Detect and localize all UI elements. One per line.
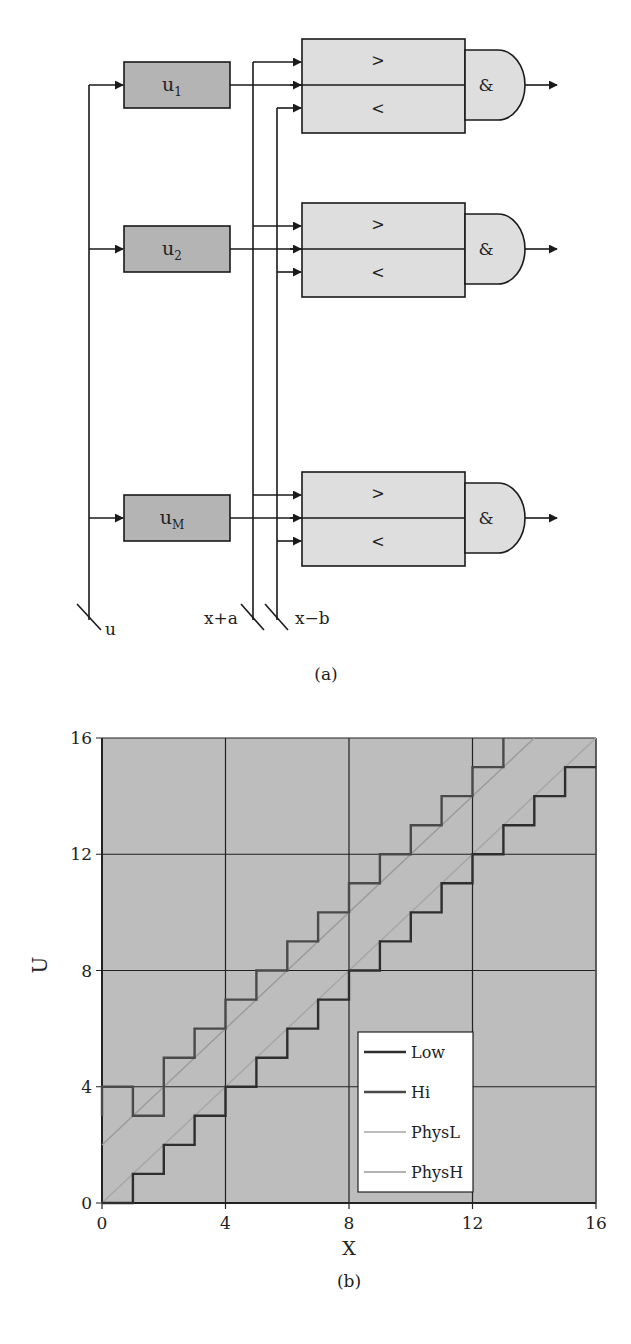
greater-than-label: > (371, 51, 384, 70)
x-tick-label: 4 (220, 1213, 231, 1233)
x-axis-label: X (342, 1237, 356, 1259)
legend-label-physh: PhysH (411, 1163, 463, 1182)
channel-3: uM><& (89, 472, 557, 566)
legend: LowHiPhysLPhysH (358, 1032, 473, 1192)
less-than-label: < (371, 99, 384, 118)
bus-label-u: u (105, 619, 116, 639)
and-gate (465, 50, 525, 120)
y-tick-label: 12 (70, 844, 92, 864)
and-gate-label: & (478, 508, 493, 528)
y-tick-label: 8 (81, 961, 92, 981)
bus-label-x-minus-b: x−b (295, 608, 330, 628)
x-tick-label: 12 (462, 1213, 484, 1233)
channel-1: u1><& (89, 39, 557, 133)
greater-than-label: > (371, 484, 384, 503)
legend-label-physl: PhysL (411, 1123, 460, 1142)
channel-2: u2><& (89, 203, 557, 297)
less-than-label: < (371, 263, 384, 282)
y-tick-label: 0 (81, 1193, 92, 1213)
y-tick-label: 4 (81, 1077, 92, 1097)
y-axis-label: U (28, 957, 52, 974)
x-tick-label: 8 (344, 1213, 355, 1233)
block-diagram: ux+ax−bu1><&u2><&uM><& (77, 39, 557, 639)
and-gate-label: & (478, 75, 493, 95)
legend-label-low: Low (411, 1043, 445, 1062)
step-chart: 04812160481216LowHiPhysLPhysH (70, 728, 606, 1233)
and-gate-label: & (478, 239, 493, 259)
less-than-label: < (371, 532, 384, 551)
and-gate (465, 483, 525, 553)
x-tick-label: 0 (97, 1213, 108, 1233)
panel-b-caption: (b) (337, 1271, 361, 1291)
y-tick-label: 16 (70, 728, 92, 748)
panel-a-caption: (a) (314, 664, 337, 684)
x-tick-label: 16 (585, 1213, 607, 1233)
figure: ux+ax−bu1><&u2><&uM><& (a) 0481216048121… (0, 0, 631, 1344)
bus-label-x-plus-a: x+a (204, 608, 238, 628)
greater-than-label: > (371, 215, 384, 234)
legend-label-hi: Hi (411, 1083, 430, 1102)
and-gate (465, 214, 525, 284)
